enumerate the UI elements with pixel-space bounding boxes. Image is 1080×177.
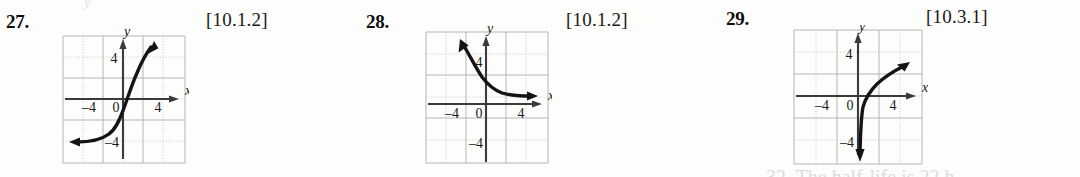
- graph-28-y-arrowhead: [482, 36, 489, 46]
- ghost-bottom-text: 32. The half-life is 22 h: [0, 166, 1080, 177]
- graph-27-y-arrowhead: [119, 39, 126, 49]
- graph-29-svg: –4 0 4 4 –4 y x: [792, 25, 928, 167]
- problem-28-graph: –4 0 4 4 –4 y x: [424, 26, 552, 166]
- graph-29-curve-arrow-down: [855, 149, 864, 162]
- graph-28-svg: –4 0 4 4 –4 y x: [424, 26, 552, 166]
- graph-29-x-arrowhead: [906, 92, 916, 99]
- graph-29-ytick-4: 4: [846, 47, 853, 62]
- problem-29-graph: –4 0 4 4 –4 y x: [792, 25, 928, 167]
- graph-27-ytick-4: 4: [111, 51, 118, 66]
- problem-27-reference: [10.1.2]: [206, 9, 268, 31]
- graph-28-x-arrowhead: [532, 100, 542, 107]
- problem-27-graph: –4 0 4 4 –4 y x: [61, 29, 189, 165]
- graph-27-xtick-4: 4: [155, 100, 162, 115]
- problem-28-reference: [10.1.2]: [566, 9, 628, 31]
- graph-28-y-axis-label: y: [485, 26, 494, 36]
- graph-27-x-axis-label: x: [184, 83, 189, 98]
- graph-29-xtick-4: 4: [890, 98, 897, 113]
- graph-29-xtick-0: 0: [847, 98, 854, 113]
- graph-27-ytick-minus4: –4: [104, 135, 119, 150]
- graph-28-x-axis-label: x: [547, 88, 552, 103]
- ghost-y-label-top: y: [84, 0, 91, 11]
- graph-28-xtick-4: 4: [518, 106, 525, 121]
- graph-28-xtick-minus4: –4: [444, 106, 459, 121]
- problem-29-reference: [10.3.1]: [926, 6, 988, 28]
- graph-29-y-axis-label: y: [857, 25, 866, 34]
- graph-27-curve-arrow-left: [69, 138, 80, 147]
- graph-28-xtick-0: 0: [476, 106, 483, 121]
- graph-27-y-axis-label: y: [122, 29, 131, 39]
- graph-27-xtick-minus4: –4: [81, 100, 96, 115]
- graph-28-ytick-minus4: –4: [468, 136, 483, 151]
- graph-27-svg: –4 0 4 4 –4 y x: [61, 29, 189, 165]
- graph-28-curve-arrow-right: [527, 92, 538, 101]
- answer-key-page: y 27. [10.1.2]: [0, 0, 1080, 177]
- graph-28-ytick-4: 4: [476, 55, 483, 70]
- graph-29-xtick-minus4: –4: [814, 98, 829, 113]
- problem-29-number: 29.: [726, 8, 749, 30]
- problem-27-number: 27.: [6, 11, 29, 33]
- graph-29-y-arrowhead: [854, 33, 861, 43]
- problem-28-number: 28.: [366, 11, 389, 33]
- graph-29-ytick-minus4: –4: [839, 135, 854, 150]
- graph-27-x-arrowhead: [169, 95, 179, 102]
- graph-27-xtick-0: 0: [113, 100, 120, 115]
- ghost-bottom-text-content: 32. The half-life is 22 h: [766, 166, 954, 177]
- graph-29-x-axis-label: x: [921, 80, 928, 95]
